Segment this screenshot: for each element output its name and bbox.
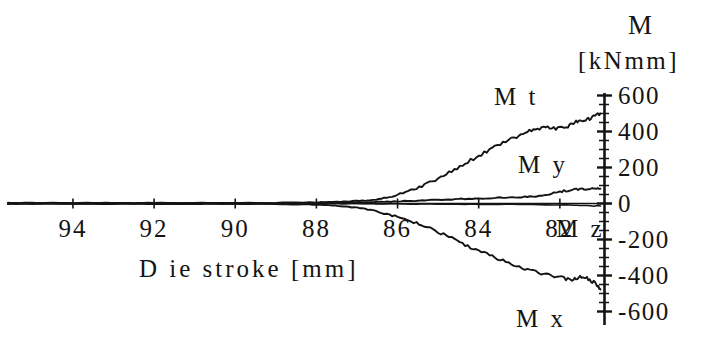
series-line-mt xyxy=(8,113,600,203)
x-tick-label: 90 xyxy=(205,216,265,241)
chart-figure: M [kNmm] 6004002000-200-400-600 94929088… xyxy=(0,0,721,343)
curve-label-mx: M x xyxy=(516,306,566,331)
y-tick-label: 0 xyxy=(618,191,632,216)
curve-label-mt: M t xyxy=(494,84,538,109)
y-tick-label: 200 xyxy=(618,155,660,180)
x-tick-label: 94 xyxy=(43,216,103,241)
y-tick-label: 400 xyxy=(618,119,660,144)
y-tick-label: -400 xyxy=(618,263,670,288)
x-tick-label: 84 xyxy=(449,216,509,241)
y-tick-label: -200 xyxy=(618,227,670,252)
y-tick-label: -600 xyxy=(618,299,670,324)
x-tick-label: 92 xyxy=(124,216,184,241)
y-axis-title-symbol: M xyxy=(628,12,652,39)
x-axis-caption: D ie stroke [mm] xyxy=(139,256,358,281)
curve-label-mz: M z xyxy=(556,216,605,241)
curve-label-my: M y xyxy=(518,152,568,177)
x-tick-label: 88 xyxy=(286,216,346,241)
x-tick-label: 86 xyxy=(368,216,428,241)
y-axis-title-units: [kNmm] xyxy=(578,48,679,73)
y-tick-label: 600 xyxy=(618,83,660,108)
series-line-my xyxy=(8,188,600,203)
